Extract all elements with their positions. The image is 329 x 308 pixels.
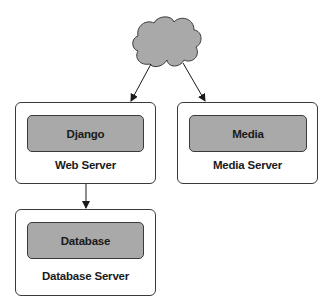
django-app-box: Django <box>27 115 144 152</box>
django-label: Django <box>67 128 105 140</box>
database-label: Database <box>61 235 111 247</box>
media-label: Media <box>232 128 264 140</box>
media-server-box: Media Media Server <box>177 102 318 184</box>
cloud-icon <box>133 17 201 67</box>
media-app-box: Media <box>189 115 307 152</box>
arrow-cloud-to-web-server <box>131 64 151 101</box>
media-server-label: Media Server <box>178 159 317 171</box>
web-server-label: Web Server <box>16 159 155 171</box>
database-server-label: Database Server <box>16 270 155 282</box>
database-app-box: Database <box>27 222 144 259</box>
architecture-diagram: Django Web Server Media Media Server Dat… <box>0 0 329 308</box>
database-server-box: Database Database Server <box>15 209 156 296</box>
arrow-cloud-to-media-server <box>183 63 205 101</box>
web-server-box: Django Web Server <box>15 102 156 184</box>
